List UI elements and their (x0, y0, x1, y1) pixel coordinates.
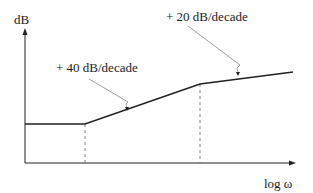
arrow-20-icon (236, 72, 240, 76)
magnitude-asymptote (25, 72, 293, 124)
slope-20-label: + 20 dB/decade (166, 9, 248, 24)
bode-diagram: dB log ω + 40 dB/decade + 20 dB/decade (0, 0, 313, 193)
y-axis-arrow-icon (23, 28, 28, 35)
slope-40-label: + 40 dB/decade (56, 60, 138, 75)
x-axis-arrow-icon (289, 161, 296, 166)
x-axis-label: log ω (264, 176, 293, 191)
leader-40 (89, 79, 128, 108)
leader-20 (188, 26, 240, 72)
y-axis-label: dB (14, 12, 30, 27)
